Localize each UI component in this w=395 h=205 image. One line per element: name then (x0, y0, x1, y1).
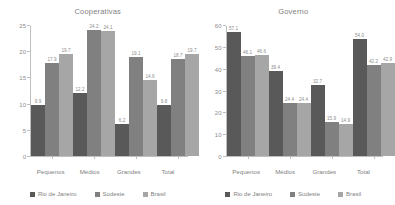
y-axis-tick-mark (223, 25, 226, 26)
bar[interactable]: 46.1 (241, 56, 255, 156)
x-axis-labels: PequenosMédiosGrandesTotal (31, 168, 188, 175)
bar-value-label: 19.1 (132, 51, 141, 56)
chart-legend: Rio de JaneiroSudesteBrasil (196, 191, 392, 197)
chart-legend: Rio de JaneiroSudesteBrasil (0, 191, 196, 197)
y-axis-tick-label: 5 (23, 128, 30, 134)
legend-item[interactable]: Sudeste (290, 191, 320, 197)
bar[interactable]: 17.9 (45, 63, 59, 156)
bar[interactable]: 54.0 (353, 39, 367, 156)
legend-item[interactable]: Brasil (143, 191, 166, 197)
bar-value-label: 18.7 (174, 53, 183, 58)
y-axis-tick-label: 25 (19, 23, 30, 29)
bar-value-label: 46.6 (257, 49, 266, 54)
y-axis-tick-label: 10 (19, 102, 30, 108)
y-axis-tick-label: 10 (215, 132, 226, 138)
bar-value-label: 46.1 (243, 50, 252, 55)
x-axis-tick-mark (374, 156, 375, 159)
bar[interactable]: 14.6 (143, 80, 157, 156)
bar-group: 57.146.146.6 (227, 26, 269, 156)
y-axis-tick-label: 30 (215, 89, 226, 95)
y-axis-tick-label: 60 (215, 23, 226, 29)
legend-label: Brasil (346, 191, 361, 197)
bar[interactable]: 24.1 (101, 31, 115, 156)
bar[interactable]: 6.2 (115, 124, 129, 156)
legend-item[interactable]: Rio de Janeiro (225, 191, 272, 197)
bar[interactable]: 9.9 (31, 105, 45, 156)
bar[interactable]: 32.7 (311, 85, 325, 156)
bar[interactable]: 15.9 (325, 122, 339, 156)
bar[interactable]: 24.4 (283, 103, 297, 156)
x-axis-tick-mark (248, 156, 249, 159)
bar-value-label: 42.2 (369, 59, 378, 64)
legend-label: Sudeste (298, 191, 320, 197)
bar[interactable]: 42.9 (381, 63, 395, 156)
x-axis-category-label: Médios (70, 168, 109, 175)
bar-set: 57.146.146.6 (227, 26, 269, 156)
legend-item[interactable]: Rio de Janeiro (30, 191, 77, 197)
legend-label: Brasil (151, 191, 166, 197)
bar-group: 6.219.114.6 (115, 26, 157, 156)
bar-value-label: 32.7 (313, 79, 322, 84)
x-axis-category-label: Pequenos (227, 168, 266, 175)
bar[interactable]: 57.1 (227, 32, 241, 156)
chart-title: Cooperativas (0, 7, 196, 16)
y-axis-tick-label: 50 (215, 45, 226, 51)
y-axis-tick-mark (27, 25, 30, 26)
legend-item[interactable]: Brasil (338, 191, 361, 197)
chart-panel-governo: Governo 0102030405060 57.146.146.639.424… (196, 0, 392, 205)
legend-label: Sudeste (103, 191, 125, 197)
bar[interactable]: 14.9 (339, 124, 353, 156)
bar-value-label: 54.0 (355, 33, 364, 38)
legend-item[interactable]: Sudeste (95, 191, 125, 197)
bar-set: 54.042.242.9 (353, 26, 395, 156)
x-axis-tick-mark (178, 156, 179, 159)
bar-groups: 57.146.146.639.424.424.432.715.914.954.0… (227, 26, 384, 156)
bar[interactable]: 18.7 (171, 59, 185, 156)
y-axis-tick-mark (223, 134, 226, 135)
bar[interactable]: 24.2 (87, 30, 101, 156)
bar-group: 54.042.242.9 (353, 26, 395, 156)
bar-group: 39.424.424.4 (269, 26, 311, 156)
y-axis-tick-label: 0 (23, 154, 30, 160)
y-axis-tick-mark (27, 156, 30, 157)
legend-swatch-icon (143, 192, 148, 197)
y-axis-tick-label: 20 (19, 49, 30, 55)
y-axis-tick-label: 20 (215, 110, 226, 116)
plot-area-governo: 0102030405060 57.146.146.639.424.424.432… (226, 26, 384, 157)
y-axis-tick-mark (223, 112, 226, 113)
bar-value-label: 24.1 (104, 25, 113, 30)
bar-value-label: 17.9 (48, 57, 57, 62)
bar-set: 9.917.919.7 (31, 26, 73, 156)
bar-value-label: 9.9 (35, 99, 41, 104)
legend-label: Rio de Janeiro (38, 191, 77, 197)
legend-swatch-icon (30, 192, 35, 197)
bar[interactable]: 19.7 (59, 54, 73, 156)
bar-set: 32.715.914.9 (311, 26, 353, 156)
bar[interactable]: 12.2 (73, 93, 87, 156)
bar-value-label: 39.4 (271, 65, 280, 70)
x-axis-tick-mark (136, 156, 137, 159)
bar-value-label: 42.9 (383, 57, 392, 62)
y-axis-tick-mark (223, 156, 226, 157)
legend-swatch-icon (95, 192, 100, 197)
bar[interactable]: 19.1 (129, 57, 143, 156)
bar[interactable]: 9.8 (157, 105, 171, 156)
bar-value-label: 15.9 (327, 116, 336, 121)
y-axis-tick-label: 15 (19, 75, 30, 81)
bar[interactable]: 24.4 (297, 103, 311, 156)
chart-panel-cooperativas: Cooperativas 0510152025 9.917.919.712.22… (0, 0, 196, 205)
bar[interactable]: 42.2 (367, 65, 381, 156)
bar-group: 12.224.224.1 (73, 26, 115, 156)
x-axis-category-label: Total (148, 168, 187, 175)
legend-swatch-icon (338, 192, 343, 197)
bar[interactable]: 46.6 (255, 55, 269, 156)
bar[interactable]: 39.4 (269, 71, 283, 156)
bar-value-label: 14.6 (146, 74, 155, 79)
x-axis-line (226, 156, 384, 157)
y-axis-tick-label: 40 (215, 67, 226, 73)
x-axis-tick-mark (290, 156, 291, 159)
x-axis-category-label: Grandes (109, 168, 148, 175)
bar-value-label: 14.9 (341, 118, 350, 123)
y-axis-tick-mark (223, 91, 226, 92)
